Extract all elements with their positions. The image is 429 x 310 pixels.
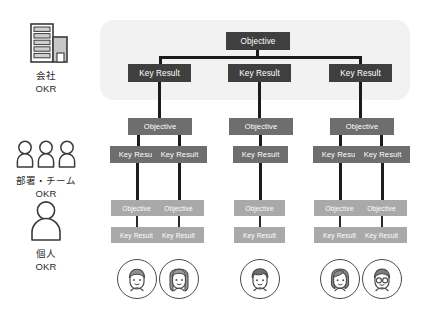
legend-item-individual: 個人 OKR — [0, 196, 92, 273]
person-objective-5-label: Objective — [367, 205, 395, 212]
company-objective-box[interactable]: Objective — [226, 32, 290, 50]
person-wavy-hair-avatar[interactable] — [240, 259, 280, 299]
person-bob-hair-avatar[interactable] — [320, 259, 360, 299]
team-key-result-2-label: Key Result — [161, 150, 199, 159]
legend-company-line1: 会社 — [36, 70, 56, 81]
company-objective-stem — [256, 50, 259, 58]
team-objective-2-label: Objective — [245, 122, 278, 131]
team-objective-3-label: Objective — [346, 122, 379, 131]
person-objective-3[interactable]: Objective — [234, 200, 285, 216]
person-key-result-5[interactable]: Key Result — [356, 227, 407, 243]
link-team-kr5-to-person-o5 — [381, 163, 384, 200]
legend-item-team: 部署・チーム OKR — [0, 123, 92, 200]
team-key-result-5[interactable]: Key Result — [355, 146, 410, 163]
link-company-kr3-to-team-o3 — [359, 82, 362, 118]
team-objective-3[interactable]: Objective — [330, 118, 394, 135]
company-key-result-2[interactable]: Key Result — [228, 64, 291, 82]
person-objective-1-label: Objective — [122, 205, 150, 212]
team-objective-2[interactable]: Objective — [229, 118, 293, 135]
person-key-result-1-label: Key Result — [120, 232, 153, 239]
person-objective-3-label: Objective — [245, 205, 273, 212]
person-short-hair-avatar[interactable] — [117, 259, 157, 299]
legend-individual-line2: OKR — [0, 261, 92, 274]
team-objective-1-label: Objective — [144, 122, 177, 131]
team-o3-stem-a — [339, 135, 342, 146]
team-key-result-1-label: Key Result — [119, 150, 157, 159]
person-objective-5[interactable]: Objective — [356, 200, 407, 216]
team-key-result-4-label: Key Result — [322, 150, 360, 159]
person-glasses-avatar[interactable] — [362, 259, 402, 299]
person-o3-stem — [259, 216, 261, 227]
link-team-kr2-to-person-o2 — [178, 163, 181, 200]
team-o2-stem-a — [259, 135, 262, 146]
legend-item-company: 会社 OKR — [0, 18, 92, 95]
team-objective-1[interactable]: Objective — [128, 118, 192, 135]
company-key-result-1[interactable]: Key Result — [128, 64, 191, 82]
person-key-result-3-label: Key Result — [243, 232, 276, 239]
person-long-hair-avatar[interactable] — [159, 259, 199, 299]
three-people-icon — [0, 123, 92, 169]
person-key-result-3[interactable]: Key Result — [234, 227, 285, 243]
link-company-kr1-to-team-o1 — [158, 82, 161, 118]
office-building-icon — [0, 18, 92, 64]
legend-individual-line1: 個人 — [36, 248, 56, 259]
company-key-result-3-label: Key Result — [340, 69, 381, 78]
team-key-result-3-label: Key Result — [242, 150, 280, 159]
company-key-result-2-label: Key Result — [239, 69, 280, 78]
link-company-kr2-to-team-o2 — [258, 82, 261, 118]
person-o4-stem — [339, 216, 341, 227]
person-o2-stem — [178, 216, 180, 227]
okr-diagram: 会社 OKR 部署・チーム OKR 個人 — [0, 0, 429, 310]
legend-label-company: 会社 OKR — [0, 70, 92, 95]
single-person-icon — [0, 196, 92, 242]
link-team-kr3-to-person-o3 — [259, 163, 262, 200]
legend-company-line2: OKR — [0, 83, 92, 96]
link-team-kr4-to-person-o4 — [339, 163, 342, 200]
company-bus-connector — [159, 56, 362, 59]
person-o1-stem — [136, 216, 138, 227]
company-key-result-1-label: Key Result — [139, 69, 180, 78]
link-team-kr1-to-person-o1 — [136, 163, 139, 200]
person-key-result-2-label: Key Result — [162, 232, 195, 239]
person-objective-4-label: Objective — [325, 205, 353, 212]
person-objective-2-label: Objective — [164, 205, 192, 212]
company-key-result-3[interactable]: Key Result — [329, 64, 392, 82]
team-o3-stem-b — [380, 135, 383, 146]
legend-label-individual: 個人 OKR — [0, 248, 92, 273]
team-key-result-5-label: Key Result — [364, 150, 402, 159]
person-key-result-4-label: Key Result — [323, 232, 356, 239]
team-key-result-3[interactable]: Key Result — [233, 146, 288, 163]
person-key-result-2[interactable]: Key Result — [153, 227, 204, 243]
team-o1-stem-a — [137, 135, 140, 146]
person-key-result-5-label: Key Result — [365, 232, 398, 239]
company-objective-label: Objective — [240, 37, 275, 46]
person-objective-2[interactable]: Objective — [153, 200, 204, 216]
team-o1-stem-b — [178, 135, 181, 146]
person-o5-stem — [381, 216, 383, 227]
team-key-result-2[interactable]: Key Result — [152, 146, 207, 163]
legend-team-line1: 部署・チーム — [16, 175, 77, 186]
